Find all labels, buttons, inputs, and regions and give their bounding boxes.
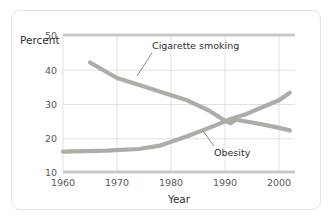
chart-figure: Cigarette smoking Obesity 50 40 30 20 10… <box>0 0 333 222</box>
ytick-label-40: 40 <box>45 65 57 76</box>
y-axis-title: Percent <box>20 34 60 46</box>
x-axis-title: Year <box>167 193 191 205</box>
xtick-label-1960: 1960 <box>51 177 75 188</box>
xtick-label-2000: 2000 <box>267 177 291 188</box>
xtick-label-1990: 1990 <box>213 177 237 188</box>
line-chart: Cigarette smoking Obesity 50 40 30 20 10… <box>0 0 333 222</box>
ytick-label-30: 30 <box>45 99 57 110</box>
series-annotation-cigarette-smoking: Cigarette smoking <box>152 40 239 51</box>
series-annotation-obesity: Obesity <box>214 147 251 158</box>
ytick-label-20: 20 <box>45 133 57 144</box>
xtick-label-1970: 1970 <box>105 177 129 188</box>
xtick-label-1980: 1980 <box>159 177 183 188</box>
